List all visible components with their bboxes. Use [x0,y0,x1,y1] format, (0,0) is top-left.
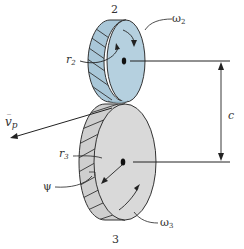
radius-subscript: 3 [64,153,68,161]
gear-2-center [122,58,126,65]
omega-3-label: ω3 [160,217,173,230]
omega-subscript: 2 [181,18,185,26]
gear-2-label: 2 [111,4,118,15]
r3-label: r3 [59,148,69,161]
gear-diagram [0,0,244,249]
velocity-subscript: p [12,120,18,130]
omega-2-leader [145,19,172,30]
omega-2-label: ω2 [172,13,185,26]
gear-3-center [121,158,126,165]
vector-bar: ‾ [7,114,11,122]
omega-subscript: 3 [169,222,173,230]
radius-subscript: 2 [71,59,75,67]
omega-symbol: ω [160,216,169,229]
helix-angle-label: ψ [43,181,52,192]
center-distance-label: c [228,110,234,121]
mesh-contact [108,101,128,103]
gear-3 [75,104,156,226]
gear-3-label: 3 [112,234,119,245]
r2-label: r2 [66,54,76,67]
omega-symbol: ω [172,12,181,25]
gear-2 [80,20,145,112]
